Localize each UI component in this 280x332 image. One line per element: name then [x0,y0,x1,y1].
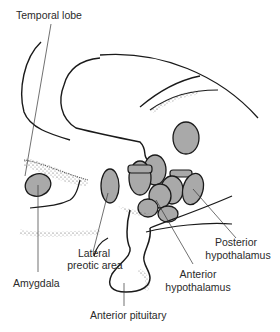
lateral-preoptic-nucleus [101,169,119,203]
label-anterior-pituitary: Anterior pituitary [90,309,166,321]
temporal-lobe-leader [25,24,51,176]
label-amygdala: Amygdala [13,277,60,289]
label-posterior-hypothalamus-line1: Posterior [206,236,266,248]
posterior-hypothalamus-leader [193,189,236,238]
label-temporal-lobe: Temporal lobe [16,9,82,21]
label-posterior-hypothalamus-line2: hypothalamus [198,249,278,261]
label-anterior-hypothalamus-line1: Anterior [168,268,228,280]
brain-diagram: Temporal lobe Amygdala Lateral preotic a… [0,0,280,332]
label-anterior-hypothalamus-line2: hypothalamus [158,281,238,293]
cortex-outline [61,58,148,160]
label-lateral-preoptic-line1: Lateral [70,247,118,259]
cortex-outer-arc [100,54,258,118]
label-lateral-preoptic-line2: preotic area [60,259,130,271]
